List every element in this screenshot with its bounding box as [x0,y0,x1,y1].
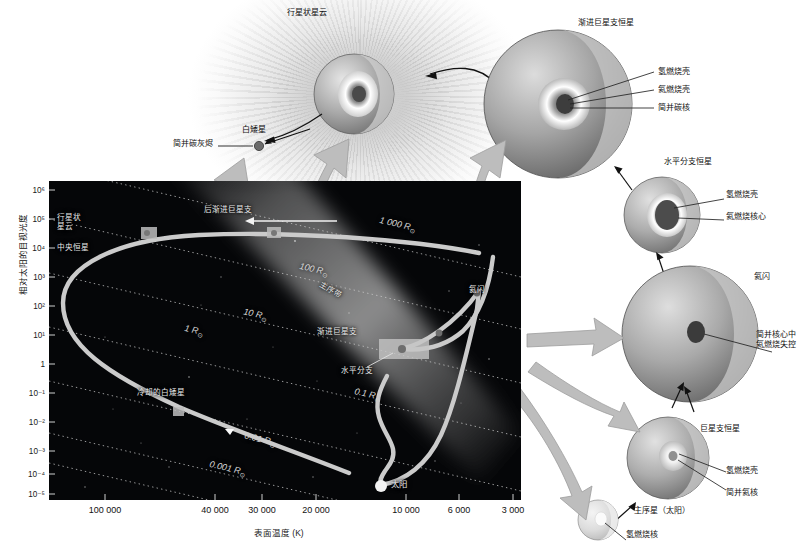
gb-callout-h-shell: 氢燃烧壳 [726,466,758,477]
giant-branch-star-illustration [626,410,798,520]
gb-callout-he-core: 简并氦核 [726,488,758,499]
y-tick-1e-3: 10⁻³ [29,446,45,456]
horizontal-branch-star-title: 水平分支恒星 [664,157,712,168]
ms-callout-h-core: 氢燃烧核 [626,530,658,541]
y-axis-title: 相对太阳的目视光度 [16,214,28,295]
hb-callout-h-shell: 氢燃烧壳 [726,190,758,201]
x-tick-30000: 30 000 [248,505,276,515]
y-tick-1: 1 [40,360,45,369]
agb-star-illustration [482,28,658,180]
agb-callout-he-shell: 氦燃烧壳 [658,85,690,96]
y-tick-1e-2: 10⁻² [29,417,45,427]
nebula-to-white-dwarf-arrow [244,92,334,152]
figure-root: 行星状星云 简并碳灰烬 白矮星 [0,0,798,547]
y-tick-1e6: 10⁶ [33,186,45,195]
degenerate-carbon-ash-label: 简并碳灰烬 [173,139,213,150]
x-tick-40000: 40 000 [201,505,229,515]
y-tick-1e-5: 10⁻⁵ [28,489,45,499]
y-tick-1e1: 10¹ [33,331,45,340]
hr-diagram-panel: 1 000 R⊙ 100 R⊙ 10 R⊙ 1 R⊙ 0.1 R⊙ 0.01 R… [49,181,521,500]
hr-plot-area[interactable]: 1 000 R⊙ 100 R⊙ 10 R⊙ 1 R⊙ 0.1 R⊙ 0.01 R… [49,181,521,500]
x-tick-100000: 100 000 [89,505,122,515]
y-tick-1e-1: 10⁻¹ [29,388,45,398]
y-tick-1e2: 10² [33,302,45,311]
y-tick-1e3: 10³ [33,273,45,282]
y-tick-1e4: 10⁴ [32,244,45,253]
arrow-to-helium-flash [527,318,624,356]
horizontal-branch-star-illustration [622,170,798,260]
hb-callout-he-core: 氦燃烧核心 [726,212,766,223]
y-tick-1e5: 10⁵ [32,215,45,224]
axis-ticks [49,181,521,500]
main-sequence-star-title: 主序星（太阳） [634,506,690,517]
main-sequence-star-illustration [576,496,632,546]
x-tick-6000: 6 000 [448,505,471,515]
x-tick-10000: 10 000 [392,505,420,515]
x-axis-title: 表面温度 (K) [254,526,304,538]
agb-callout-c-core: 简并碳核 [658,103,690,114]
agb-callout-h-shell: 氢燃烧壳 [658,67,690,78]
helium-flash-callout: 简并核心中氦燃烧失控 [756,330,796,351]
x-tick-3000: 3 000 [502,505,525,515]
planetary-nebula-title: 行星状星云 [287,8,327,19]
y-tick-1e-4: 10⁻⁴ [28,469,45,479]
x-tick-20000: 20 000 [302,505,330,515]
